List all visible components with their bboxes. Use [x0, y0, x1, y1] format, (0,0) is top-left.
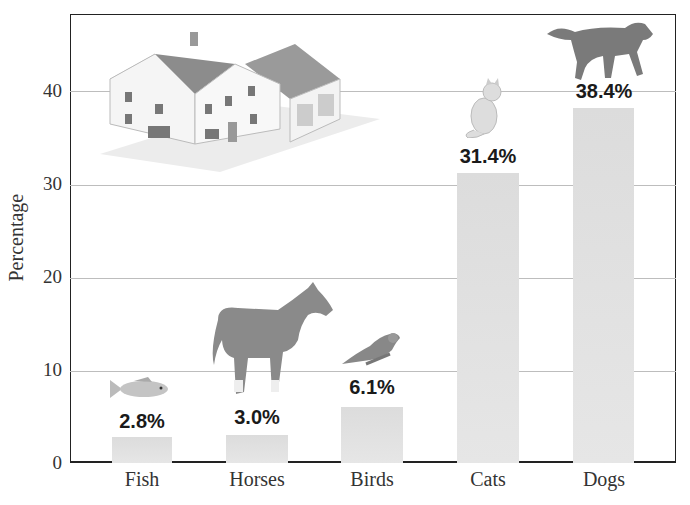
x-label-cats: Cats	[433, 468, 543, 491]
value-label-fish: 2.8%	[87, 410, 197, 433]
ytick-0: 0	[32, 452, 62, 474]
bar-birds	[341, 407, 403, 463]
bar-horses	[226, 435, 288, 463]
value-label-horses: 3.0%	[202, 406, 312, 429]
ytick-20: 20	[32, 266, 62, 288]
dog-icon	[545, 18, 657, 80]
value-label-cats: 31.4%	[433, 145, 543, 168]
cat-icon	[462, 76, 512, 138]
x-label-fish: Fish	[87, 468, 197, 491]
x-label-horses: Horses	[202, 468, 312, 491]
fish-icon	[108, 377, 172, 401]
bird-icon	[340, 328, 402, 370]
x-label-birds: Birds	[317, 468, 427, 491]
x-label-dogs: Dogs	[549, 468, 659, 491]
ytick-10: 10	[32, 359, 62, 381]
house-icon	[100, 24, 380, 174]
bar-fish	[112, 437, 172, 463]
bar-dogs	[573, 108, 634, 463]
ytick-30: 30	[32, 173, 62, 195]
bar-cats	[457, 173, 519, 463]
value-label-dogs: 38.4%	[549, 80, 659, 103]
horse-icon	[208, 280, 333, 400]
ytick-40: 40	[32, 80, 62, 102]
value-label-birds: 6.1%	[317, 376, 427, 399]
y-axis-label: Percentage	[5, 202, 28, 282]
